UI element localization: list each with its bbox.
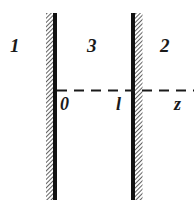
left-wall-hatch (46, 13, 54, 200)
region-2-label: 2 (159, 35, 170, 56)
layer-diagram: 1 3 2 0 l z (0, 0, 196, 206)
z-axis-label: z (173, 94, 181, 114)
right-wall-hatch (135, 13, 143, 200)
right-wall (131, 13, 143, 200)
left-wall (46, 13, 57, 200)
thickness-label: l (116, 94, 121, 114)
region-1-label: 1 (10, 35, 20, 56)
left-wall-plate (53, 13, 57, 200)
origin-label: 0 (60, 94, 69, 114)
right-wall-plate (131, 13, 135, 200)
region-3-label: 3 (86, 35, 97, 56)
